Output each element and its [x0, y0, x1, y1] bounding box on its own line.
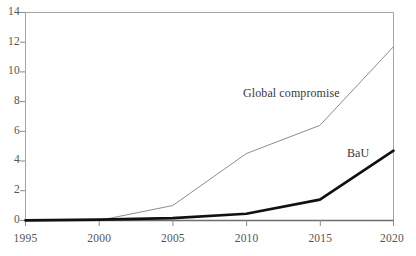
x-axis-label-2015: 2015: [295, 232, 345, 244]
y-axis-label-4: 4: [0, 153, 20, 165]
y-axis-label-6: 6: [0, 124, 20, 136]
y-axis-label-14: 14: [0, 5, 20, 17]
x-axis-label-2020: 2020: [367, 232, 416, 244]
y-axis-label-2: 2: [0, 183, 20, 195]
x-axis-label-2010: 2010: [222, 232, 272, 244]
series-label-global-compromise: Global compromise: [243, 86, 340, 101]
y-tick-marks: [20, 13, 25, 221]
plot-frame: [25, 12, 394, 221]
y-axis-label-8: 8: [0, 94, 20, 106]
line-chart: 14 12 10 8 6 4 2 0 1995 2000 2005 2010 2…: [0, 0, 416, 256]
x-axis-label-2000: 2000: [74, 232, 124, 244]
chart-canvas: [0, 0, 416, 256]
y-axis-label-12: 12: [0, 35, 20, 47]
series-line-bau: [26, 151, 394, 221]
x-axis-label-1995: 1995: [1, 232, 51, 244]
series-line-global-compromise: [26, 47, 394, 221]
x-axis-label-2005: 2005: [148, 232, 198, 244]
series-label-bau: BaU: [347, 146, 369, 161]
y-axis-label-0: 0: [0, 213, 20, 225]
y-axis-label-10: 10: [0, 64, 20, 76]
